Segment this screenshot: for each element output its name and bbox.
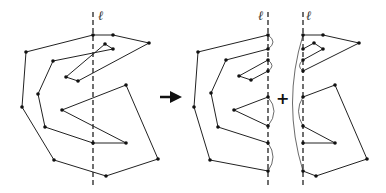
- left-part-panel: ℓ: [192, 8, 274, 186]
- right-part-panel: ℓ: [293, 8, 369, 186]
- line-label: ℓ: [258, 8, 264, 23]
- plus-icon: +: [276, 89, 289, 108]
- line-label: ℓ: [98, 8, 104, 23]
- line-label: ℓ: [306, 8, 312, 23]
- vertices: [20, 33, 160, 178]
- original-polygon-panel: ℓ: [20, 8, 160, 186]
- arrow-icon: [160, 91, 182, 103]
- polygon-cut-diagram: ℓ ℓ: [0, 0, 386, 193]
- original-polygon: [22, 35, 158, 176]
